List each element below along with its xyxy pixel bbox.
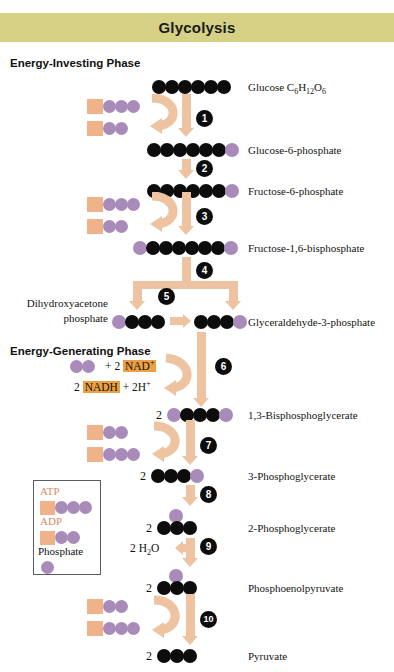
step-badge-2[interactable]: 2 — [196, 160, 213, 177]
carbon-circle — [207, 315, 221, 329]
adenosine-square — [87, 219, 103, 234]
molecule-3-phosphoglycerate: 2 — [140, 467, 203, 485]
molecule-pyruvate: 2 — [146, 647, 196, 665]
adenosine-square — [87, 99, 103, 114]
nadh-label: NADH — [85, 381, 118, 393]
phosphate-circle — [115, 600, 128, 613]
flow-arrow-shaft-step4 — [182, 257, 191, 283]
phosphate-circle — [219, 408, 233, 422]
flow-arrow-head-step2 — [178, 170, 194, 179]
adenosine-square — [87, 121, 103, 136]
legend-box: ATP ADP Phosphate — [33, 480, 101, 575]
carbon-circle — [204, 80, 218, 94]
split-branch-left-head — [129, 301, 145, 310]
legend-glyph-atp — [40, 500, 91, 515]
phosphate-circle — [115, 220, 128, 233]
split-branch-right-head — [225, 301, 241, 310]
flow-arrow-head-step10 — [182, 636, 198, 645]
phosphate-circle — [82, 360, 95, 373]
phosphate-circle — [127, 100, 140, 113]
legend-label-adp: ADP — [40, 515, 62, 527]
adenosine-square — [40, 501, 55, 515]
atp-glyph-step3 — [87, 196, 139, 212]
adenosine-square — [87, 621, 103, 636]
flow-arrow-head-step7 — [182, 456, 198, 465]
adenosine-square — [87, 425, 103, 440]
proton-charge: + — [146, 379, 151, 388]
carbon-circle — [206, 408, 220, 422]
nad-equation-line: + 2 NAD+ — [105, 358, 156, 372]
stoich-coefficient: 2 — [140, 469, 146, 484]
compound-label-dhap-line1: Dihydroxyacetone — [18, 297, 108, 309]
carbon-circle — [165, 80, 179, 94]
step-badge-4[interactable]: 4 — [196, 262, 213, 279]
nad-plus-highlight: NAD+ — [123, 360, 156, 372]
compound-label-fructose-1-6-bisphosphate: Fructose-1,6-bisphosphate — [248, 242, 364, 254]
phosphate-pair-step6 — [70, 358, 94, 374]
carbon-circle — [199, 184, 213, 198]
compound-label-fructose-6-phosphate: Fructose-6-phosphate — [248, 185, 343, 197]
adp-glyph-step1 — [87, 120, 127, 136]
adenosine-square — [87, 599, 103, 614]
nadh-coefficient: 2 — [74, 381, 80, 393]
phase-heading-energy-investing: Energy-Investing Phase — [10, 57, 140, 69]
phosphate-circle — [127, 448, 140, 461]
step-badge-6[interactable]: 6 — [215, 358, 232, 375]
carbon-circle — [170, 581, 184, 595]
atp-glyph-step7 — [87, 446, 139, 462]
compound-label-1-3-bisphosphoglycerate: 1,3-Bisphosphoglycerate — [248, 409, 358, 421]
adp-glyph-step3 — [87, 218, 127, 234]
title-banner: Glycolysis — [0, 13, 394, 42]
adenosine-square — [40, 531, 55, 545]
compound-label-pyruvate: Pyruvate — [248, 650, 287, 662]
step-badge-1[interactable]: 1 — [196, 110, 213, 127]
plus-sign: + — [123, 381, 130, 393]
carbon-circle — [146, 241, 160, 255]
phosphate-circle — [67, 531, 80, 544]
step-badge-9[interactable]: 9 — [200, 538, 217, 555]
carbon-circle — [183, 649, 197, 663]
carbon-circle — [173, 143, 187, 157]
carbon-circle — [170, 521, 184, 535]
carbon-circle — [164, 469, 178, 483]
carbon-circle — [185, 241, 199, 255]
carbon-circle — [177, 469, 191, 483]
carbon-circle — [199, 143, 213, 157]
step-badge-3[interactable]: 3 — [196, 208, 213, 225]
atp-glyph-step10 — [87, 620, 139, 636]
phase-heading-energy-generating: Energy-Generating Phase — [10, 345, 151, 357]
molecule-g3p — [194, 313, 246, 331]
nadh-highlight: NADH — [83, 381, 120, 393]
flow-arrow-shaft-step3 — [182, 192, 191, 228]
carbon-circle — [220, 315, 234, 329]
step-badge-8[interactable]: 8 — [200, 486, 217, 503]
carbon-circle — [157, 581, 171, 595]
carbon-circle — [160, 143, 174, 157]
adp-glyph-step10 — [87, 598, 127, 614]
molecule-glucose-6-phosphate — [147, 141, 238, 159]
legend-glyph-phosphate — [41, 560, 53, 575]
glycolysis-diagram: Glycolysis Energy-Investing Phase Energy… — [0, 0, 394, 672]
flow-arrow-shaft-step6 — [197, 332, 206, 400]
step-badge-7[interactable]: 7 — [200, 437, 217, 454]
page-title: Glycolysis — [158, 19, 235, 36]
carbon-circle — [212, 143, 226, 157]
phosphate-circle — [41, 561, 54, 574]
phosphate-circle — [127, 622, 140, 635]
phosphate-circle — [112, 315, 126, 329]
compound-label-phosphoenolpyruvate: Phosphoenolpyruvate — [248, 582, 343, 594]
legend-label-phosphate: Phosphate — [38, 545, 83, 557]
plus-sign: + — [105, 360, 112, 372]
compound-label-dhap-line2: phosphate — [18, 312, 108, 324]
step-badge-5[interactable]: 5 — [158, 288, 175, 305]
legend-label-atp: ATP — [40, 485, 60, 497]
carbon-circle — [157, 521, 171, 535]
phosphate-circle — [190, 469, 204, 483]
phosphate-circle — [225, 143, 239, 157]
carbon-circle — [191, 80, 205, 94]
stoich-coefficient: 2 — [146, 649, 152, 664]
step-badge-10[interactable]: 10 — [200, 611, 217, 628]
compound-label-glucose-6-phosphate: Glucose-6-phosphate — [248, 144, 341, 156]
phosphate-circle — [79, 501, 92, 514]
water-label: 2 H2O — [130, 542, 159, 557]
